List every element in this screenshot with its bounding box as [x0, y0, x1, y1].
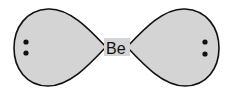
left-lobe	[14, 9, 106, 86]
left-dot-bottom	[23, 50, 28, 55]
right-lobe	[127, 9, 219, 86]
center-atom-label: Be	[106, 40, 126, 57]
orbital-diagram: Be	[0, 0, 236, 95]
right-dot-bottom	[202, 51, 207, 56]
right-dot-top	[202, 39, 207, 44]
left-dot-top	[23, 39, 28, 44]
